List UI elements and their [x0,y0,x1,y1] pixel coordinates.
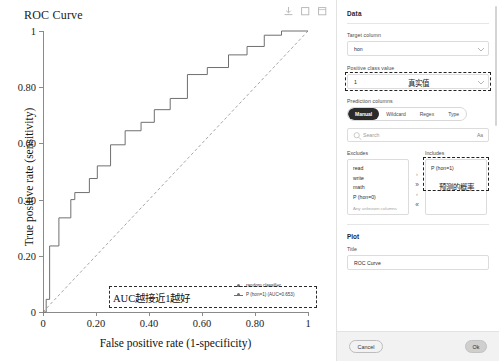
chart-toolbar [283,6,328,17]
x-tick [43,312,44,316]
download-icon[interactable] [283,6,294,17]
case-sensitivity-toggle[interactable]: Aa [477,132,483,138]
tab-wildcard[interactable]: Wildcard [379,108,412,120]
panel-footer: Cancel Ok [337,331,499,361]
data-section-title: Data [347,10,489,17]
excludes-label: Excludes [347,150,409,156]
y-tick-label: 0 [31,307,36,318]
y-tick-label: 0.20 [18,250,36,261]
x-tick-label: 0.60 [193,318,211,329]
x-tick-label: 0.80 [246,318,264,329]
chevron-down-icon [477,47,483,51]
series-random-classifier [43,31,308,312]
x-tick-label: 0.20 [87,318,105,329]
positive-class-label: Positive class value [347,65,489,71]
ok-button[interactable]: Ok [465,340,487,353]
includes-wrapper: P (hon=1) 预测的概率 [425,159,487,215]
panel-scroll-area[interactable]: Data Target column hon Positive class va… [337,0,499,330]
search-input[interactable]: Search Aa [347,128,489,142]
roc-curve-svg [43,31,308,312]
plot-title-value: ROC Curve [354,260,381,266]
excludes-footer: Any unknown columns [353,206,397,211]
includes-column: Includes P (hon=1) 预测的概率 [425,150,487,215]
excludes-column: Excludes read write math P (hon=0) Any u… [347,150,409,215]
prediction-mode-tabs: Manual Wildcard Regex Type [347,107,467,121]
x-tick [308,312,309,316]
chevron-down-icon [477,80,483,84]
copy-icon[interactable] [300,6,311,17]
tab-manual[interactable]: Manual [348,108,379,120]
plot-area: 00.200.400.600.801 00.200.400.600.801 ra… [43,31,308,312]
series-roc-step [43,31,308,312]
positive-class-value: 1 [354,79,357,85]
includes-annotation: 预测的概率 [439,181,474,192]
list-item[interactable]: read [353,164,404,174]
positive-class-annotation: 真实值 [408,76,429,87]
cancel-button[interactable]: Cancel [349,340,383,353]
x-tick [96,312,97,316]
y-tick-label: 0.40 [18,194,36,205]
x-axis-line [43,312,308,313]
list-item[interactable]: write [353,174,404,184]
y-axis-title-wrap: True positive rate (sensitivity) [10,31,24,312]
prediction-columns-label: Prediction columns [347,98,489,104]
expand-icon[interactable] [317,6,328,17]
includes-label: Includes [425,150,487,156]
target-column-select[interactable]: hon [347,41,489,56]
tab-type[interactable]: Type [441,108,466,120]
excludes-list[interactable]: read write math P (hon=0) Any unknown co… [347,159,409,215]
panel-scrollbar[interactable] [495,6,497,126]
annotation-text: AUC越接近1越好 [113,290,190,305]
chart-pane: ROC Curve True positi [0,0,336,361]
tab-regex[interactable]: Regex [413,108,441,120]
plot-title-input[interactable]: ROC Curve [347,255,489,270]
x-tick [202,312,203,316]
search-placeholder-text: Search [363,132,379,138]
x-tick [149,312,150,316]
target-column-label: Target column [347,32,489,38]
plot-section-title: Plot [347,233,489,240]
chart-title: ROC Curve [24,8,83,23]
divider [347,224,489,225]
positive-class-wrapper: 1 真实值 [347,74,489,89]
x-tick-label: 1 [305,318,310,329]
list-item[interactable]: P (hon=1) [431,164,482,174]
x-tick-label: 0 [40,318,45,329]
y-tick-label: 1 [31,26,36,37]
column-selector: Excludes read write math P (hon=0) Any u… [347,150,489,215]
y-tick-label: 0.80 [18,82,36,93]
list-item[interactable]: math [353,183,404,193]
settings-panel: Data Target column hon Positive class va… [336,0,498,361]
plot-title-label: Title [347,246,489,252]
search-icon [353,132,360,139]
move-left-one-button[interactable]: ‹ [416,192,418,198]
move-right-one-button[interactable]: › [416,172,418,178]
list-item[interactable]: P (hon=0) [353,193,404,203]
move-buttons: › » ‹ « [409,150,425,208]
move-right-all-button[interactable]: » [415,182,419,189]
x-tick-label: 0.40 [140,318,158,329]
x-tick [255,312,256,316]
move-left-all-button[interactable]: « [415,202,419,209]
divider [347,23,489,24]
target-column-value: hon [354,46,363,52]
x-axis-title: False positive rate (1-specificity) [43,337,308,349]
y-tick-label: 0.60 [18,138,36,149]
